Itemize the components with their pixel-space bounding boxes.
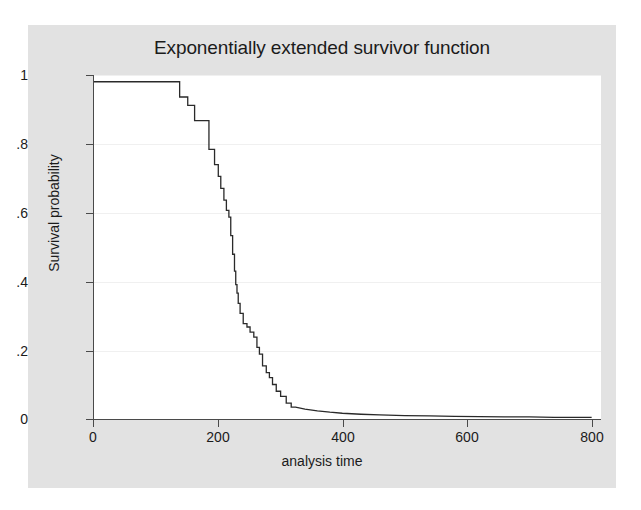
y-tick-02 [86, 351, 93, 352]
survivor-curve-path [93, 82, 592, 418]
x-axis-label: analysis time [28, 453, 616, 469]
y-tick-04 [86, 282, 93, 283]
y-tick-06 [86, 213, 93, 214]
y-ticklabel-06: .6 [0, 205, 28, 221]
y-axis-label: Survival probability [46, 103, 62, 323]
y-tick-08 [86, 144, 93, 145]
y-tick-0 [86, 419, 93, 420]
chart-title: Exponentially extended survivor function [28, 37, 616, 59]
y-ticklabel-0: 0 [0, 411, 28, 427]
chart-panel: Exponentially extended survivor function… [28, 25, 616, 488]
x-axis-line [93, 419, 601, 420]
x-tick-400 [343, 420, 344, 427]
y-ticklabel-08: .8 [0, 136, 28, 152]
y-axis-line [93, 75, 94, 420]
x-ticklabel-400: 400 [313, 429, 373, 445]
x-ticklabel-800: 800 [562, 429, 622, 445]
figure-canvas: Exponentially extended survivor function… [0, 0, 641, 510]
survivor-curve [93, 75, 601, 420]
x-ticklabel-0: 0 [63, 429, 123, 445]
y-tick-1 [86, 75, 93, 76]
x-tick-0 [93, 420, 94, 427]
y-ticklabel-02: .2 [0, 343, 28, 359]
y-ticklabel-1: 1 [0, 67, 28, 83]
x-ticklabel-600: 600 [437, 429, 497, 445]
x-tick-600 [467, 420, 468, 427]
y-ticklabel-04: .4 [0, 274, 28, 290]
x-tick-200 [218, 420, 219, 427]
x-tick-800 [592, 420, 593, 427]
x-ticklabel-200: 200 [188, 429, 248, 445]
